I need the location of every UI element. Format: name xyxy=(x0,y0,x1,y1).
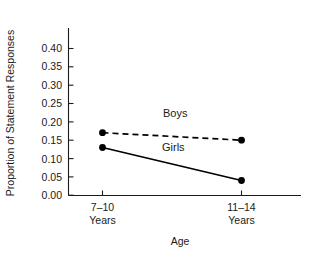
y-tick-label-040: 0.40 xyxy=(42,42,63,54)
x-tick-label-right-line2: Years xyxy=(228,214,254,226)
data-point-boys-11-14 xyxy=(238,137,245,144)
y-tick-label-015: 0.15 xyxy=(42,134,63,146)
data-point-girls-11-14 xyxy=(238,177,245,184)
data-point-boys-7-10 xyxy=(99,129,106,136)
line-chart: Proportion of Statement Responses 0.40 0… xyxy=(0,0,314,254)
x-tick-label-right-line1: 11–14 xyxy=(227,201,256,213)
y-tick-label-005: 0.05 xyxy=(42,171,63,183)
series-label-girls: Girls xyxy=(162,141,185,153)
y-tick-label-020: 0.20 xyxy=(42,116,63,128)
y-tick-label-030: 0.30 xyxy=(42,79,63,91)
data-point-girls-7-10 xyxy=(99,144,106,151)
x-tick-label-left-line1: 7–10 xyxy=(91,201,115,213)
series-label-boys: Boys xyxy=(163,107,188,119)
y-tick-label-035: 0.35 xyxy=(42,60,63,72)
series-line-boys xyxy=(103,133,242,141)
x-tick-label-left-line2: Years xyxy=(89,214,115,226)
y-tick-label-010: 0.10 xyxy=(42,153,63,165)
y-tick-label-000: 0.00 xyxy=(42,189,63,201)
chart-figure: Proportion of Statement Responses 0.40 0… xyxy=(0,0,314,254)
y-axis-title: Proportion of Statement Responses xyxy=(4,30,16,196)
y-tick-label-025: 0.25 xyxy=(42,97,63,109)
y-tick-marks xyxy=(69,49,74,196)
x-tick-marks xyxy=(103,191,242,196)
x-axis-title: Age xyxy=(171,235,190,247)
